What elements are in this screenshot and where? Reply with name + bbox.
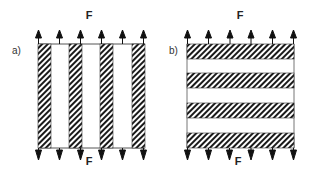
force-bottom-label-a: F (86, 155, 93, 167)
horizontal-stripes (187, 44, 294, 148)
arrow-up-icon (120, 30, 126, 44)
arrow-up-icon (291, 30, 297, 44)
arrow-down-icon (120, 148, 126, 160)
vertical-stripes (38, 44, 145, 148)
arrow-down-icon (185, 148, 191, 160)
panel-b: b) F F (169, 9, 297, 167)
top-arrows-a (36, 30, 147, 44)
arrow-down-icon (248, 148, 254, 160)
arrow-up-icon (206, 30, 212, 44)
panel-a-label: a) (12, 45, 21, 56)
stripe (187, 73, 294, 88)
stripe (38, 44, 51, 148)
arrow-up-icon (78, 30, 84, 44)
arrow-down-icon (141, 148, 147, 160)
stripe (132, 44, 145, 148)
arrow-down-icon (78, 148, 84, 160)
arrow-up-icon (141, 30, 147, 44)
arrow-up-icon (185, 30, 191, 44)
arrow-down-icon (291, 148, 297, 160)
arrow-down-icon (206, 148, 212, 160)
panel-b-label: b) (169, 45, 178, 56)
force-bottom-label-b: F (235, 155, 242, 167)
stripe (69, 44, 82, 148)
stripe (187, 44, 294, 59)
top-arrows-b (185, 30, 297, 44)
panel-a: a) F F (12, 9, 147, 167)
arrow-down-icon (99, 148, 105, 160)
arrow-down-icon (36, 148, 42, 160)
arrow-up-icon (270, 30, 276, 44)
arrow-down-icon (270, 148, 276, 160)
arrow-up-icon (227, 30, 233, 44)
arrow-up-icon (248, 30, 254, 44)
arrow-up-icon (36, 30, 42, 44)
arrow-up-icon (99, 30, 105, 44)
stripe (100, 44, 113, 148)
stripe (187, 103, 294, 118)
arrow-down-icon (57, 148, 63, 160)
force-top-label-b: F (237, 9, 244, 21)
arrow-up-icon (57, 30, 63, 44)
force-top-label-a: F (86, 9, 93, 21)
arrow-down-icon (227, 148, 233, 160)
composite-diagram: a) F F (0, 0, 314, 174)
stripe (187, 133, 294, 148)
